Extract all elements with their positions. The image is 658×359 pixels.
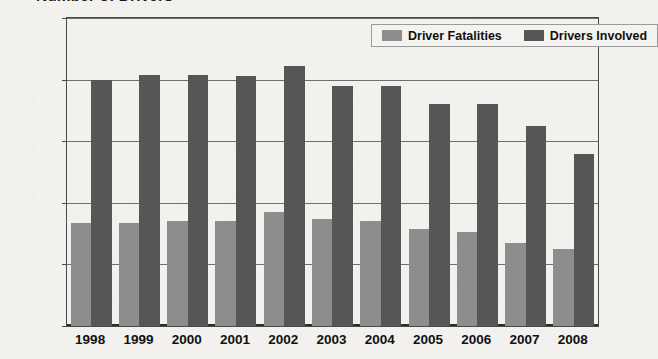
legend-label-drivers-involved: Drivers Involved — [550, 29, 647, 43]
bar-group-2001 — [212, 18, 260, 326]
bar-drivers-involved-2000 — [188, 75, 209, 326]
bar-group-2007 — [501, 18, 549, 326]
bar-group-2005 — [405, 18, 453, 326]
bar-drivers-involved-2005 — [429, 104, 450, 326]
bar-driver-fatalities-2004 — [360, 221, 381, 326]
bar-driver-fatalities-1998 — [71, 223, 92, 326]
x-tick-label-1999: 1999 — [123, 332, 153, 347]
plot-area — [66, 17, 599, 327]
bar-drivers-involved-1999 — [139, 75, 160, 326]
bar-group-2002 — [260, 18, 308, 326]
bar-drivers-involved-2004 — [381, 86, 402, 326]
bar-drivers-involved-2003 — [332, 86, 353, 326]
legend-swatch-icon-drivers-involved — [524, 30, 544, 41]
bar-drivers-involved-2006 — [477, 104, 498, 326]
x-tick-label-2008: 2008 — [558, 332, 588, 347]
bar-driver-fatalities-2006 — [457, 232, 478, 326]
bar-group-2008 — [550, 18, 598, 326]
x-tick-label-2004: 2004 — [365, 332, 395, 347]
x-tick-label-1998: 1998 — [75, 332, 105, 347]
chart-title: Number of Drivers — [36, 0, 173, 5]
x-tick-label-2005: 2005 — [413, 332, 443, 347]
x-tick-label-2006: 2006 — [461, 332, 491, 347]
bars-group — [67, 18, 598, 326]
bar-driver-fatalities-2008 — [553, 249, 574, 326]
bar-driver-fatalities-2007 — [505, 243, 526, 326]
x-tick-label-2002: 2002 — [268, 332, 298, 347]
bar-group-2006 — [453, 18, 501, 326]
bar-driver-fatalities-2005 — [409, 229, 430, 326]
bar-driver-fatalities-2002 — [264, 212, 285, 326]
legend-swatch-icon-driver-fatalities — [382, 30, 402, 41]
bar-group-1999 — [115, 18, 163, 326]
x-tick-label-2007: 2007 — [510, 332, 540, 347]
x-axis-tick-labels: 1998199920002001200220032004200520062007… — [66, 330, 599, 358]
x-tick-label-2003: 2003 — [316, 332, 346, 347]
chart-legend: Driver Fatalities Drivers Involved — [371, 24, 658, 47]
bar-drivers-involved-2008 — [574, 154, 595, 326]
y-tick-mark-0 — [62, 326, 67, 327]
bar-drivers-involved-2002 — [284, 66, 305, 326]
bar-group-2003 — [308, 18, 356, 326]
legend-item-driver-fatalities: Driver Fatalities — [382, 29, 502, 43]
bar-drivers-involved-1998 — [91, 80, 112, 326]
bar-group-1998 — [67, 18, 115, 326]
bar-driver-fatalities-2000 — [167, 221, 188, 326]
bar-driver-fatalities-2003 — [312, 219, 333, 326]
bar-drivers-involved-2001 — [236, 76, 257, 326]
legend-item-drivers-involved: Drivers Involved — [524, 29, 647, 43]
bar-driver-fatalities-2001 — [215, 221, 236, 326]
legend-label-driver-fatalities: Driver Fatalities — [408, 29, 502, 43]
x-tick-label-2000: 2000 — [172, 332, 202, 347]
x-tick-label-2001: 2001 — [220, 332, 250, 347]
bar-group-2000 — [164, 18, 212, 326]
bar-drivers-involved-2007 — [526, 126, 547, 326]
bar-group-2004 — [357, 18, 405, 326]
bar-driver-fatalities-1999 — [119, 223, 140, 326]
